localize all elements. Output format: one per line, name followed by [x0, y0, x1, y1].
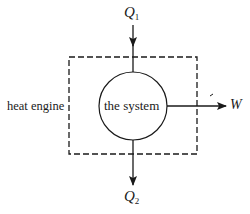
- work-tick: [210, 94, 213, 96]
- heat-out-label: Q2: [124, 188, 139, 206]
- work-label: W: [230, 97, 242, 113]
- system-label: the system: [104, 98, 159, 114]
- heat-engine-label: heat engine: [7, 99, 64, 114]
- heat-in-label: Q1: [124, 4, 139, 22]
